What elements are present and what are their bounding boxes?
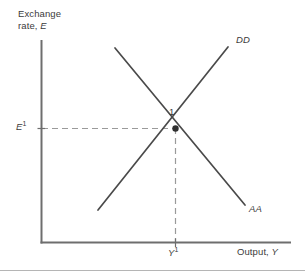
equilibrium-point-marker xyxy=(172,125,178,131)
dd-aa-diagram: Exchangerate, E Output, Y E1 Y1 DD AA 1 xyxy=(0,0,305,278)
y-axis-variable: E xyxy=(40,20,46,31)
x-axis-variable: Y xyxy=(272,246,278,257)
x-axis-title-text: Output, xyxy=(237,246,272,257)
aa-curve xyxy=(115,48,245,205)
y-axis-value-label: E1 xyxy=(16,121,26,133)
y-axis-title-line2: rate, xyxy=(18,20,40,31)
x-axis-value-superscript: 1 xyxy=(174,246,178,253)
aa-curve-label: AA xyxy=(249,203,262,215)
y-axis-value-superscript: 1 xyxy=(22,120,26,127)
x-axis-title: Output, Y xyxy=(237,246,278,258)
y-axis-title: Exchangerate, E xyxy=(18,8,102,32)
dd-curve-label: DD xyxy=(236,34,250,46)
y-axis-title-line1: Exchange xyxy=(18,8,61,19)
equilibrium-point-label: 1 xyxy=(169,106,174,118)
x-axis-value-label: Y1 xyxy=(168,247,178,259)
diagram-canvas xyxy=(0,0,305,278)
